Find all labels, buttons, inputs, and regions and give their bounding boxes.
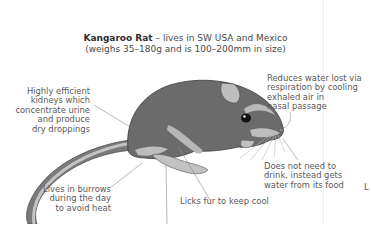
size-note: (weighs 35–180g and is 100–200mm in size… [85, 44, 286, 54]
annotation-kidneys: Highly efficient kidneys which concentra… [15, 87, 90, 134]
annotation-drinking: Does not need to drink, instead gets wat… [264, 162, 344, 190]
annotation-burrows: Lives in burrows during the day to avoid… [43, 185, 111, 213]
cutoff-text: L [364, 183, 369, 192]
annotation-licks-fur: Licks fur to keep cool [180, 197, 269, 206]
species-name: Kangaroo Rat – lives in SW USA and Mexic… [83, 33, 287, 43]
diagram-title: Kangaroo Rat – lives in SW USA and Mexic… [0, 33, 371, 55]
annotation-respiration: Reduces water lost via respiration by co… [267, 74, 362, 112]
